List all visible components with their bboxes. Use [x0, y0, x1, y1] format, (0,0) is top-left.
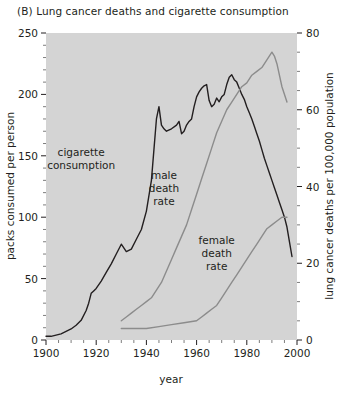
x-axis-tick-labels: 190019201940196019802000 — [33, 347, 311, 359]
figure-panel-b: (B) Lung cancer deaths and cigarette con… — [0, 0, 347, 396]
x-tick-label: 2000 — [284, 347, 311, 359]
x-tick-label: 1920 — [83, 347, 110, 359]
y-left-tick-label: 200 — [18, 88, 38, 100]
y-right-tick-label: 80 — [306, 27, 319, 39]
y-right-tick-label: 40 — [306, 181, 319, 193]
x-tick-label: 1940 — [133, 347, 160, 359]
y-left-tick-label: 250 — [18, 27, 38, 39]
y-right-tick-label: 20 — [306, 257, 319, 269]
x-tick-label: 1960 — [183, 347, 210, 359]
x-axis-title: year — [159, 373, 183, 385]
y-axis-left-minor-ticks — [43, 45, 46, 327]
male-death-rate-label: maledeathrate — [149, 169, 179, 207]
x-tick-label: 1900 — [33, 347, 60, 359]
y-right-tick-label: 0 — [306, 334, 313, 346]
y-left-tick-label: 0 — [31, 334, 38, 346]
y-axis-left-title: packs consumed per person — [4, 112, 16, 260]
x-axis-minor-ticks — [59, 340, 285, 343]
y-left-tick-label: 50 — [25, 273, 38, 285]
x-tick-label: 1980 — [233, 347, 260, 359]
y-left-tick-label: 150 — [18, 150, 38, 162]
y-axis-left-tick-labels: 050100150200250 — [18, 27, 38, 346]
y-axis-right-title: lung cancer deaths per 100,000 populatio… — [323, 72, 335, 300]
y-axis-right-tick-labels: 020406080 — [306, 27, 319, 346]
chart-canvas: 190019201940196019802000 050100150200250… — [0, 0, 347, 396]
y-axis-left-major-ticks — [41, 33, 46, 340]
y-right-tick-label: 60 — [306, 104, 319, 116]
y-axis-right-major-ticks — [297, 33, 302, 340]
y-left-tick-label: 100 — [18, 211, 38, 223]
